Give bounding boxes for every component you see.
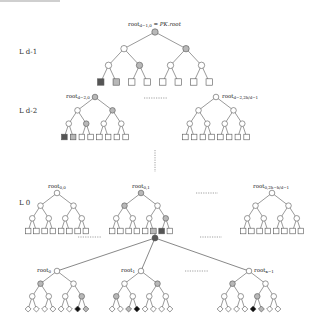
leaf-node-icon: [67, 228, 73, 234]
tree-node-icon: [146, 294, 152, 300]
leaf-node-icon: [62, 134, 68, 140]
leaf-node-icon: [25, 228, 31, 234]
leaf-node-icon: [282, 228, 288, 234]
root-label-l0-c: root0,2h−h/d−1: [253, 183, 289, 190]
level-label-d-1: L d-1: [19, 48, 37, 56]
wots-chain-node-icon: [217, 306, 223, 312]
root-label-wots-1: root1: [121, 267, 135, 274]
wots-chain-node-icon: [275, 306, 281, 312]
ld1-tree-tree: [98, 29, 213, 85]
leaf-node-icon: [42, 228, 48, 234]
tree-node-icon: [152, 29, 158, 35]
leaf-node-icon: [88, 134, 94, 140]
leaf-node-icon: [183, 134, 189, 140]
wots-chain-node-icon: [234, 306, 240, 312]
root-label-top: rootd−1,0 = PK.root: [128, 21, 181, 28]
tree-node-icon: [121, 45, 127, 51]
tree-node-icon: [110, 108, 116, 114]
tree-node-icon: [155, 203, 161, 209]
wots-chain-node-icon: [42, 306, 48, 312]
leaf-node-icon: [200, 134, 206, 140]
l0-c-tree: [240, 190, 303, 234]
tree-node-icon: [196, 108, 202, 114]
leaf-node-icon: [144, 79, 150, 85]
leaf-node-icon: [123, 134, 129, 140]
leaf-node-icon: [134, 228, 140, 234]
leaf-node-icon: [79, 134, 85, 140]
root-label-l0-a: root0,0: [48, 183, 66, 190]
tree-node-icon: [113, 216, 119, 222]
tree-node-icon: [71, 281, 77, 287]
wots-chain-node-icon: [159, 306, 165, 312]
leaf-node-icon: [50, 228, 56, 234]
leaf-node-icon: [126, 228, 132, 234]
leaf-node-icon: [209, 134, 215, 140]
wots-public-key-hub-icon: [152, 235, 158, 241]
tree-node-icon: [62, 216, 68, 222]
tree-node-icon: [136, 62, 142, 68]
leaf-node-icon: [34, 228, 40, 234]
tree-node-icon: [263, 281, 269, 287]
tree-node-icon: [71, 203, 77, 209]
wots-chain-node-icon: [267, 306, 273, 312]
tree-node-icon: [92, 94, 98, 100]
tree-node-icon: [204, 121, 210, 127]
tree-node-icon: [29, 294, 35, 300]
leaf-node-icon: [191, 134, 197, 140]
leaf-node-icon: [159, 228, 165, 234]
tree-node-icon: [155, 281, 161, 287]
wots-chain-node-icon: [66, 306, 72, 312]
tree-node-icon: [246, 268, 252, 274]
wots-chain-node-icon: [258, 306, 264, 312]
tree-node-icon: [183, 45, 189, 51]
wots-chain-node-icon: [250, 306, 256, 312]
leaf-node-icon: [235, 134, 241, 140]
leaf-node-icon: [109, 228, 115, 234]
leaf-node-icon: [114, 134, 120, 140]
leaf-node-icon: [151, 228, 157, 234]
level-label-d-2: L d-2: [19, 107, 37, 115]
wots-chain-node-icon: [83, 306, 89, 312]
tree-node-icon: [294, 216, 300, 222]
tree-node-icon: [62, 294, 68, 300]
wots-chain-node-icon: [75, 306, 81, 312]
leaf-node-icon: [70, 134, 76, 140]
root-label-l0-b: root0,1: [132, 183, 150, 190]
wots-1-tree: [109, 268, 173, 312]
tree-node-icon: [221, 294, 227, 300]
wots-chain-node-icon: [142, 306, 148, 312]
root-label-wots-k: rootκ−1: [254, 267, 274, 274]
leaf-node-icon: [218, 134, 224, 140]
leaf-node-icon: [298, 228, 304, 234]
wots-chain-node-icon: [150, 306, 156, 312]
wots-chain-node-icon: [50, 306, 56, 312]
leaf-node-icon: [105, 134, 111, 140]
tree-node-icon: [79, 216, 85, 222]
wots-chain-node-icon: [109, 306, 115, 312]
tree-node-icon: [66, 121, 72, 127]
tree-node-icon: [130, 216, 136, 222]
leaf-node-icon: [118, 228, 124, 234]
leaf-node-icon: [290, 228, 296, 234]
tree-node-icon: [213, 94, 219, 100]
wots-chain-node-icon: [33, 306, 39, 312]
leaf-node-icon: [58, 228, 64, 234]
leaf-node-icon: [98, 79, 104, 85]
leaf-node-icon: [142, 228, 148, 234]
tree-node-icon: [101, 121, 107, 127]
tree-node-icon: [54, 268, 60, 274]
leaf-node-icon: [249, 228, 255, 234]
leaf-node-icon: [273, 228, 279, 234]
tree-node-icon: [138, 190, 144, 196]
wots-chain-node-icon: [225, 306, 231, 312]
tree-node-icon: [122, 203, 128, 209]
tree-node-icon: [38, 281, 44, 287]
tree-node-icon: [46, 294, 52, 300]
leaf-node-icon: [244, 134, 250, 140]
wots-chain-node-icon: [58, 306, 64, 312]
leaf-node-icon: [265, 228, 271, 234]
ellipsis-separators: [78, 98, 222, 271]
tree-node-icon: [54, 190, 60, 196]
tree-node-icon: [244, 216, 250, 222]
leaf-node-icon: [257, 228, 263, 234]
